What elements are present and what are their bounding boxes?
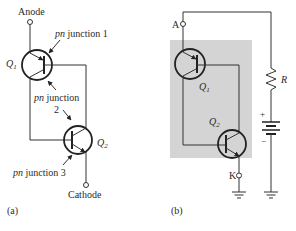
- anode-terminal-a: [181, 22, 186, 27]
- cathode-terminal-k: [237, 173, 242, 178]
- cathode-terminal: [84, 183, 89, 188]
- anode-label: Anode: [18, 6, 45, 17]
- junction-3-arrow: [63, 155, 72, 165]
- terminal-a-label: A: [172, 19, 180, 30]
- battery-minus-label: −: [261, 136, 266, 146]
- junction-1-arrow: [49, 40, 60, 53]
- resistor-label: R: [280, 74, 287, 85]
- ground-icon: [232, 192, 246, 198]
- ground-icon: [264, 192, 278, 198]
- cathode-label: Cathode: [68, 189, 102, 200]
- junction-2-arrow-down: [63, 110, 71, 120]
- panel-b-caption: (b): [171, 205, 183, 217]
- battery-icon: [262, 122, 280, 134]
- panel-b: A Q1 Q2 K: [170, 12, 287, 217]
- terminal-k-label: K: [229, 170, 237, 181]
- pn-junction-2-number: 2: [54, 104, 59, 115]
- transistor-q1: [22, 50, 86, 80]
- q2-label: Q2: [97, 137, 108, 150]
- pn-junction-1-label: pn junction 1: [54, 28, 108, 39]
- pn-junction-3-label: pn junction 3: [12, 167, 66, 178]
- q1-label: Q1: [6, 58, 17, 71]
- pn-junction-2-label: pn junction: [33, 92, 79, 103]
- thyristor-two-transistor-diagram: Anode Q1 Q2 Cathode: [0, 0, 296, 231]
- resistor-icon: [266, 68, 276, 90]
- battery-plus-label: +: [260, 109, 265, 119]
- anode-terminal: [28, 20, 33, 25]
- panel-a: Anode Q1 Q2 Cathode: [6, 6, 108, 217]
- device-shaded-region: [170, 40, 252, 158]
- junction-2-arrow-up: [48, 81, 56, 90]
- panel-a-caption: (a): [7, 205, 18, 217]
